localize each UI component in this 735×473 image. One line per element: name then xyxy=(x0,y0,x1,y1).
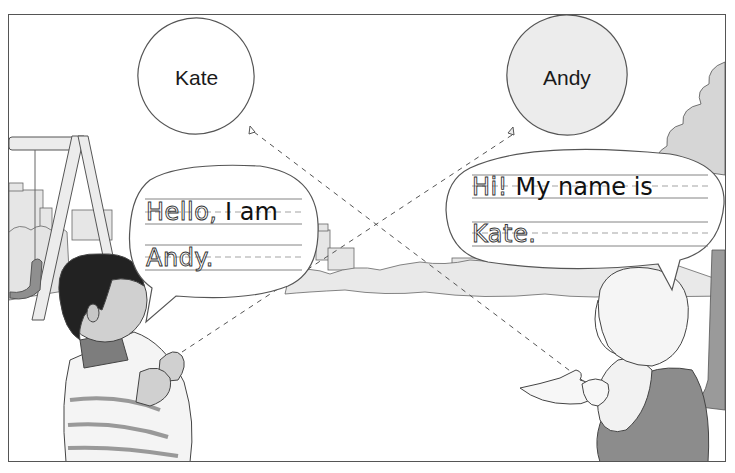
kate-bubble-line1: Hi! My name is xyxy=(472,175,653,199)
solid-text: My name is xyxy=(508,173,653,201)
balloon-label-kate: Kate xyxy=(175,66,218,90)
andy-bubble-line1: Hello, I am xyxy=(146,200,278,224)
solid-text: I am xyxy=(217,198,277,226)
andy-bubble-line2: Andy. xyxy=(146,246,214,270)
traced-text: Hi! xyxy=(472,173,508,201)
balloon-label-andy: Andy xyxy=(543,66,591,90)
picture-frame xyxy=(8,14,726,462)
traced-text: Kate. xyxy=(472,220,536,248)
kate-bubble-line2: Kate. xyxy=(472,222,536,246)
illustration-scene: Kate Andy Hello, I am Andy. Hi! My name … xyxy=(0,0,735,473)
traced-text: Andy. xyxy=(146,244,214,272)
traced-text: Hello, xyxy=(146,198,217,226)
